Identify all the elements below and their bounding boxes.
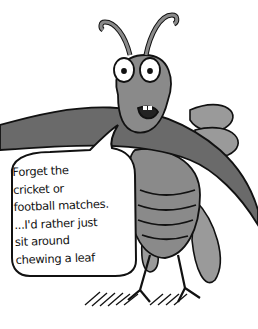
speech-bubble-text: Forget the cricket or football matches. … <box>12 160 134 269</box>
cartoon-illustration: Forget the cricket or football matches. … <box>0 0 258 329</box>
antennae <box>101 15 177 55</box>
insect-body <box>128 149 200 258</box>
